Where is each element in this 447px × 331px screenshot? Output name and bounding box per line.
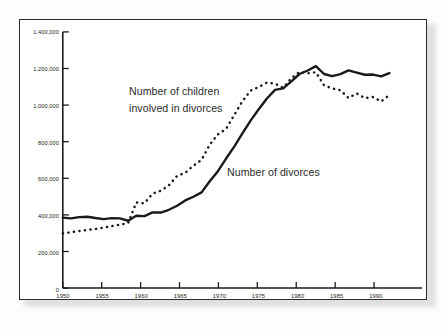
y-tick-label-200000: 200,000 [19, 250, 59, 256]
x-axis-ticks [63, 282, 374, 288]
x-tick-label-1985: 1985 [322, 293, 352, 299]
x-tick-label-1975: 1975 [244, 293, 274, 299]
y-tick-label-1200000: 1,200,000 [19, 66, 59, 72]
line-chart-plot [20, 20, 426, 299]
x-tick-label-1955: 1955 [87, 293, 117, 299]
x-tick-label-1950: 1950 [48, 293, 78, 299]
x-tick-label-1965: 1965 [165, 293, 195, 299]
y-tick-label-600000: 600,000 [19, 176, 59, 182]
annotation-children-line1: Number of children [129, 83, 222, 100]
y-tick-label-800000: 800,000 [19, 140, 59, 146]
annotation-children-line2: involved in divorces [129, 100, 222, 117]
y-axis-ticks [63, 32, 69, 288]
x-tick-label-1990: 1990 [361, 293, 391, 299]
chart-axes [63, 32, 422, 288]
chart-frame: 1,400,000 1,200,000 1,000,000 800,000 60… [19, 19, 427, 300]
y-tick-label-1400000: 1,400,000 [19, 29, 59, 35]
x-tick-label-1970: 1970 [204, 293, 234, 299]
x-tick-label-1960: 1960 [126, 293, 156, 299]
annotation-divorces: Number of divorces [227, 166, 320, 178]
y-tick-label-1000000: 1,000,000 [19, 103, 59, 109]
chart-image: 1,400,000 1,200,000 1,000,000 800,000 60… [0, 0, 447, 331]
y-tick-label-400000: 400,000 [19, 213, 59, 219]
annotation-children: Number of children involved in divorces [129, 83, 222, 117]
series-children-involved-in-divorces [63, 72, 390, 233]
x-tick-label-1980: 1980 [283, 293, 313, 299]
